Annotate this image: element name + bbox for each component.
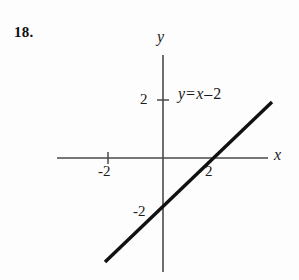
equation-equals-sign: = xyxy=(185,85,196,102)
x-axis-label: x xyxy=(274,146,281,164)
equation-rhs-constant: 2 xyxy=(213,85,221,102)
equation-label: y=x–2 xyxy=(178,85,221,103)
y-tick-label-negative-2: -2 xyxy=(133,203,146,220)
plotted-line-y-equals-x-minus-2 xyxy=(105,102,272,262)
x-tick-label-positive-2: 2 xyxy=(205,163,213,180)
equation-minus-sign: – xyxy=(203,85,213,102)
y-tick-label-positive-2: 2 xyxy=(140,91,148,108)
x-tick-label-negative-2: -2 xyxy=(98,163,111,180)
math-figure: 18. y x -2 2 2 -2 y=x–2 xyxy=(0,0,299,280)
y-axis-label: y xyxy=(157,28,164,46)
coordinate-plane xyxy=(0,0,299,280)
